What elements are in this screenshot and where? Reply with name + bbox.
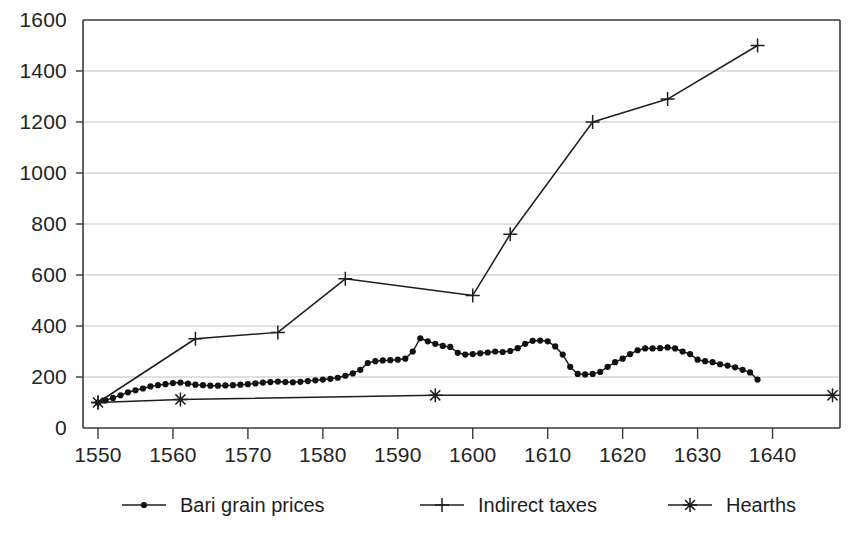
data-point-marker [335,375,341,381]
data-point-marker [485,349,491,355]
y-tick-label: 1600 [19,8,67,31]
data-point-marker [147,383,153,389]
data-point-marker [428,388,442,402]
data-point-marker [141,502,147,508]
data-point-marker [425,338,431,344]
data-point-marker [665,344,671,350]
data-point-marker [455,350,461,356]
data-point-marker [462,351,468,357]
data-point-marker [125,389,131,395]
data-point-marker [687,351,693,357]
data-point-marker [162,381,168,387]
x-tick-label: 1620 [599,443,647,466]
data-point-marker [357,367,363,373]
data-point-marker [466,288,480,302]
y-tick-label: 200 [31,365,67,388]
x-tick-label: 1550 [74,443,122,466]
data-point-marker [320,376,326,382]
data-point-marker [500,349,506,355]
data-point-marker [672,345,678,351]
data-point-marker [177,380,183,386]
data-point-marker [522,341,528,347]
y-tick-label: 1000 [19,161,67,184]
y-tick-label: 1200 [19,110,67,133]
data-point-marker [586,115,600,129]
x-tick-marks [98,428,773,439]
data-point-marker [754,376,760,382]
data-point-marker [365,360,371,366]
legend-label: Indirect taxes [478,494,597,516]
data-point-marker [290,379,296,385]
gridlines [83,71,840,377]
data-point-marker [207,383,213,389]
data-point-marker [683,498,697,512]
data-point-marker [620,356,626,362]
data-point-marker [132,387,138,393]
data-point-marker [432,341,438,347]
data-point-marker [192,382,198,388]
data-point-marker [650,345,656,351]
chart-figure: 02004006008001000120014001600 1550156015… [0,0,851,535]
series-3 [91,388,840,409]
data-point-marker [642,345,648,351]
data-point-marker [612,359,618,365]
x-tick-label: 1630 [674,443,722,466]
data-point-marker [537,337,543,343]
data-point-marker [222,382,228,388]
data-point-marker [338,272,352,286]
x-tick-label: 1570 [224,443,272,466]
data-point-marker [173,392,187,406]
data-point-marker [530,338,536,344]
legend-label: Bari grain prices [180,494,325,516]
data-point-marker [435,498,449,512]
data-point-marker [410,348,416,354]
x-tick-label: 1580 [299,443,347,466]
data-point-marker [661,92,675,106]
data-point-marker [245,381,251,387]
data-point-marker [657,345,663,351]
y-tick-label: 0 [55,416,67,439]
data-point-marker [440,343,446,349]
data-point-marker [188,332,202,346]
data-point-marker [635,347,641,353]
data-point-marker [545,338,551,344]
y-tick-label: 800 [31,212,67,235]
data-point-marker [380,357,386,363]
data-point-marker [702,358,708,364]
data-point-marker [694,357,700,363]
data-point-marker [185,381,191,387]
series-line [98,395,833,402]
legend-item-2[interactable]: Indirect taxes [420,494,597,516]
data-point-marker [271,325,285,339]
data-point-marker [275,378,281,384]
data-point-marker [503,227,517,241]
data-point-marker [350,370,356,376]
data-point-marker [717,361,723,367]
data-point-marker [155,382,161,388]
data-point-marker [282,379,288,385]
y-tick-label: 400 [31,314,67,337]
legend-item-1[interactable]: Bari grain prices [122,494,325,516]
data-point-marker [560,351,566,357]
data-point-marker [200,382,206,388]
x-tick-label: 1640 [749,443,797,466]
data-point-marker [582,371,588,377]
data-point-marker [417,335,423,341]
data-point-marker [140,385,146,391]
legend-item-3[interactable]: Hearths [668,494,796,516]
data-point-marker [297,379,303,385]
data-point-marker [372,358,378,364]
data-point-marker [552,343,558,349]
data-point-marker [117,392,123,398]
x-tick-labels: 1550156015701580159016001610162016301640 [74,443,796,466]
x-tick-label: 1600 [449,443,497,466]
data-point-marker [605,364,611,370]
y-tick-labels: 02004006008001000120014001600 [19,8,67,439]
data-point-marker [477,350,483,356]
data-point-marker [91,396,105,410]
data-point-marker [230,382,236,388]
legend-label: Hearths [726,494,796,516]
data-point-marker [342,373,348,379]
y-tick-label: 600 [31,263,67,286]
chart-legend: Bari grain pricesIndirect taxesHearths [122,494,796,516]
